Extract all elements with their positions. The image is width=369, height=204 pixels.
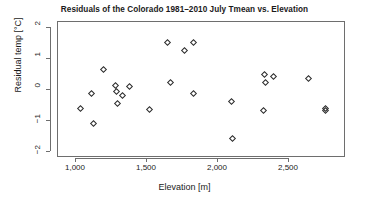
data-point: [190, 39, 197, 46]
y-axis-line: [50, 27, 51, 151]
x-axis-tick-label: 1,000: [52, 163, 98, 172]
chart-title: Residuals of the Colorado 1981–2010 July…: [0, 5, 369, 14]
data-point: [190, 90, 197, 97]
data-point: [262, 79, 269, 86]
x-axis-tick: [288, 158, 289, 162]
data-point: [100, 66, 107, 73]
y-axis-tick: [46, 58, 50, 59]
y-axis-title: Residual temp [°C]: [13, 0, 23, 125]
data-point: [119, 92, 126, 99]
x-axis-tick: [146, 158, 147, 162]
data-point: [89, 120, 96, 127]
data-point: [305, 75, 312, 82]
x-axis-tick-label: 2,000: [194, 163, 240, 172]
plot-area: [57, 21, 345, 157]
y-axis-tick: [46, 151, 50, 152]
data-point: [126, 83, 133, 90]
data-point: [261, 71, 268, 78]
data-point: [167, 79, 174, 86]
data-point: [114, 100, 121, 107]
data-point: [88, 90, 95, 97]
y-axis-tick: [46, 89, 50, 90]
x-axis-tick-label: 2,500: [265, 163, 311, 172]
x-axis-tick: [217, 158, 218, 162]
x-axis-title: Elevation [m]: [0, 182, 369, 192]
x-axis-line: [75, 158, 288, 159]
y-axis-tick: [46, 27, 50, 28]
data-point: [229, 135, 236, 142]
data-point: [228, 98, 235, 105]
data-point: [270, 73, 277, 80]
scatter-plot-figure: Residuals of the Colorado 1981–2010 July…: [0, 0, 369, 204]
data-points-layer: [58, 22, 344, 156]
x-axis-tick-label: 1,500: [123, 163, 169, 172]
data-point: [77, 105, 84, 112]
data-point: [181, 47, 188, 54]
y-axis-tick: [46, 120, 50, 121]
data-point: [164, 39, 171, 46]
data-point: [260, 107, 267, 114]
data-point: [146, 106, 153, 113]
x-axis-tick: [75, 158, 76, 162]
